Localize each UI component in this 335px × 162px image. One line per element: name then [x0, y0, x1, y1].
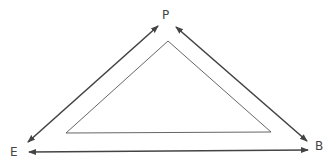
diagram-canvas: [0, 0, 335, 162]
edge-p-b-double-arrow: [176, 27, 307, 141]
node-label-e: E: [10, 146, 18, 158]
inner-triangle: [66, 41, 271, 133]
node-label-b: B: [315, 140, 323, 152]
edge-e-p-double-arrow: [28, 26, 158, 142]
edge-e-b-double-arrow: [29, 150, 308, 152]
node-label-p: P: [162, 9, 169, 21]
